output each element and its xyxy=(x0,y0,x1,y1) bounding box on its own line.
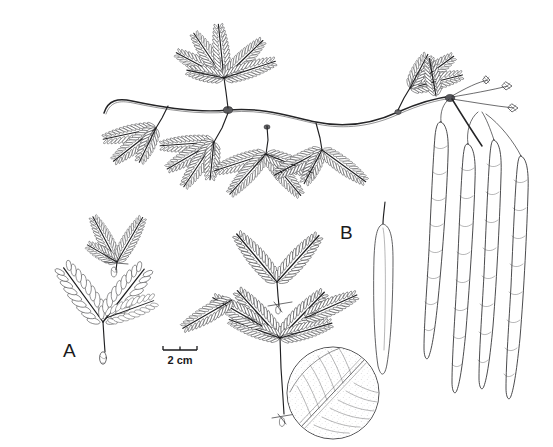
illustration-canvas: 2 cm A B xyxy=(0,0,553,447)
botanical-illustration-plate: 2 cm A B xyxy=(0,0,553,447)
scale-bar-label: 2 cm xyxy=(167,354,192,366)
label-leaf-a: A xyxy=(63,340,76,361)
label-leaf-b: B xyxy=(340,222,353,243)
